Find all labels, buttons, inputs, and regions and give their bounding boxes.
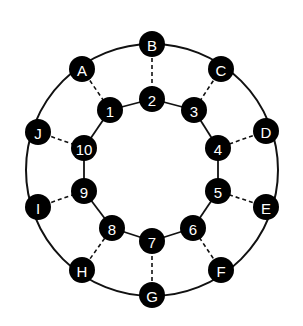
node-label: 5 — [214, 184, 222, 201]
node-label: A — [77, 62, 87, 79]
inner-node-9: 9 — [71, 178, 97, 204]
node-label: 10 — [76, 141, 93, 158]
node-label: 4 — [214, 141, 222, 158]
outer-node-i: I — [25, 194, 51, 220]
inner-node-10: 10 — [71, 135, 97, 161]
node-label: B — [147, 37, 157, 54]
outer-node-g: G — [139, 282, 165, 308]
inner-node-3: 3 — [181, 97, 207, 123]
inner-node-8: 8 — [99, 215, 125, 241]
graph-canvas: BCDEFGHIJA 12345678910 — [0, 0, 303, 326]
node-label: C — [216, 62, 227, 79]
outer-node-d: D — [253, 118, 279, 144]
outer-node-e: E — [253, 194, 279, 220]
outer-node-c: C — [208, 56, 234, 82]
node-label: J — [34, 125, 42, 142]
node-label: 8 — [108, 221, 116, 238]
ring-graph-diagram: BCDEFGHIJA 12345678910 — [0, 0, 303, 326]
node-label: F — [216, 263, 225, 280]
dashed-spokes — [38, 44, 266, 295]
outer-node-f: F — [208, 257, 234, 283]
node-label: I — [36, 200, 40, 217]
node-label: G — [146, 288, 158, 305]
outer-node-h: H — [69, 257, 95, 283]
outer-node-a: A — [69, 56, 95, 82]
inner-node-1: 1 — [97, 97, 123, 123]
inner-node-4: 4 — [205, 135, 231, 161]
inner-node-6: 6 — [180, 215, 206, 241]
node-label: H — [77, 263, 88, 280]
inner-node-7: 7 — [139, 228, 165, 254]
inner-node-2: 2 — [139, 86, 165, 112]
node-label: 7 — [148, 234, 156, 251]
node-label: 6 — [189, 221, 197, 238]
outer-node-j: J — [25, 119, 51, 145]
node-label: 9 — [80, 184, 88, 201]
inner-nodes: 12345678910 — [71, 86, 231, 254]
node-label: 3 — [190, 103, 198, 120]
node-label: 2 — [148, 92, 156, 109]
node-label: 1 — [106, 103, 114, 120]
node-label: D — [261, 124, 272, 141]
outer-node-b: B — [139, 31, 165, 57]
inner-node-5: 5 — [205, 178, 231, 204]
node-label: E — [261, 200, 271, 217]
